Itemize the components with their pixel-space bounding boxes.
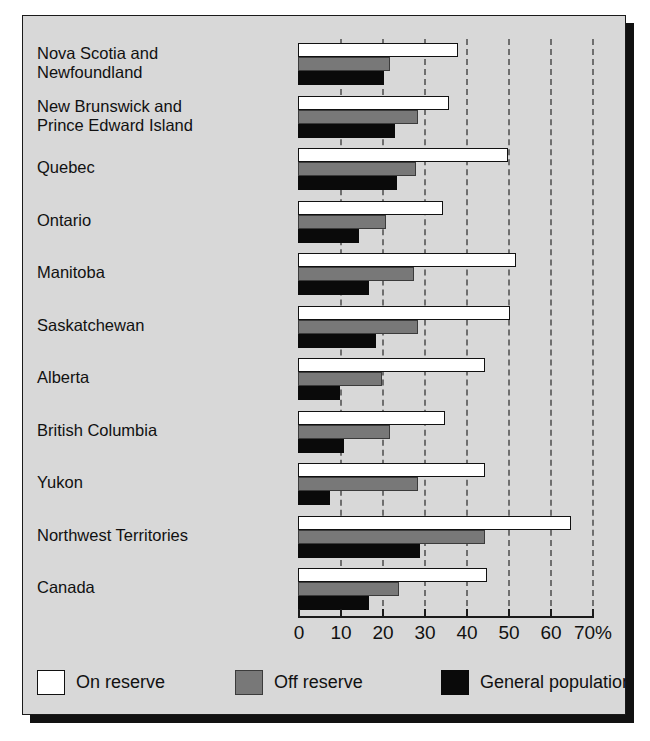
bar-gen — [298, 229, 359, 243]
category-label: Alberta — [37, 368, 295, 387]
bar-gen — [298, 176, 397, 190]
bar-on — [298, 516, 571, 530]
bar-on — [298, 463, 485, 477]
bar-on — [298, 148, 508, 162]
x-tick-0 — [298, 609, 300, 616]
bar-gen — [298, 596, 369, 610]
category-label: Canada — [37, 578, 295, 597]
x-tick-label: 70% — [571, 622, 615, 644]
category-label: Manitoba — [37, 263, 295, 282]
x-tick-label: 30 — [403, 622, 447, 644]
bar-gen — [298, 334, 376, 348]
bar-off — [298, 320, 418, 334]
legend-swatch-gen — [441, 670, 469, 695]
bar-off — [298, 372, 382, 386]
bar-on — [298, 306, 510, 320]
x-tick-70 — [592, 609, 594, 616]
bar-off — [298, 425, 390, 439]
x-axis-line — [298, 616, 594, 618]
bar-on — [298, 96, 449, 110]
x-tick-label: 60 — [529, 622, 573, 644]
category-label: British Columbia — [37, 421, 295, 440]
bar-gen — [298, 281, 369, 295]
bar-on — [298, 43, 458, 57]
x-tick-10 — [340, 609, 342, 616]
category-label: Ontario — [37, 211, 295, 230]
gridline-70 — [592, 39, 594, 616]
bar-gen — [298, 386, 340, 400]
bar-on — [298, 201, 443, 215]
x-tick-label: 50 — [487, 622, 531, 644]
chart-figure: Nova Scotia and NewfoundlandNew Brunswic… — [22, 15, 626, 715]
bar-off — [298, 477, 418, 491]
category-label: Quebec — [37, 158, 295, 177]
category-label: Yukon — [37, 473, 295, 492]
plot-area: Nova Scotia and NewfoundlandNew Brunswic… — [23, 16, 625, 714]
legend-label: On reserve — [76, 672, 165, 693]
legend-item-off[interactable]: Off reserve — [235, 664, 363, 700]
bar-on — [298, 568, 487, 582]
bar-gen — [298, 124, 395, 138]
legend-swatch-on — [37, 670, 65, 695]
chart-legend: On reserveOff reserveGeneral population — [37, 664, 612, 700]
bar-off — [298, 162, 416, 176]
bar-gen — [298, 71, 384, 85]
bar-off — [298, 215, 386, 229]
bar-off — [298, 267, 414, 281]
x-tick-label: 0 — [277, 622, 321, 644]
bar-off — [298, 530, 485, 544]
x-tick-50 — [508, 609, 510, 616]
bar-on — [298, 253, 516, 267]
bar-on — [298, 411, 445, 425]
category-label: Saskatchewan — [37, 316, 295, 335]
x-tick-20 — [382, 609, 384, 616]
x-tick-label: 10 — [319, 622, 363, 644]
bar-off — [298, 582, 399, 596]
x-tick-label: 40 — [445, 622, 489, 644]
x-tick-30 — [424, 609, 426, 616]
category-label: New Brunswick and Prince Edward Island — [37, 97, 295, 135]
category-label: Nova Scotia and Newfoundland — [37, 44, 295, 82]
bar-off — [298, 57, 390, 71]
legend-item-on[interactable]: On reserve — [37, 664, 165, 700]
legend-swatch-off — [235, 670, 263, 695]
bar-on — [298, 358, 485, 372]
bar-off — [298, 110, 418, 124]
x-tick-60 — [550, 609, 552, 616]
bar-gen — [298, 544, 420, 558]
x-tick-label: 20 — [361, 622, 405, 644]
x-tick-40 — [466, 609, 468, 616]
bar-gen — [298, 439, 344, 453]
legend-item-gen[interactable]: General population — [441, 664, 632, 700]
legend-label: General population — [480, 672, 632, 693]
bar-gen — [298, 491, 330, 505]
category-label: Northwest Territories — [37, 526, 295, 545]
legend-label: Off reserve — [274, 672, 363, 693]
